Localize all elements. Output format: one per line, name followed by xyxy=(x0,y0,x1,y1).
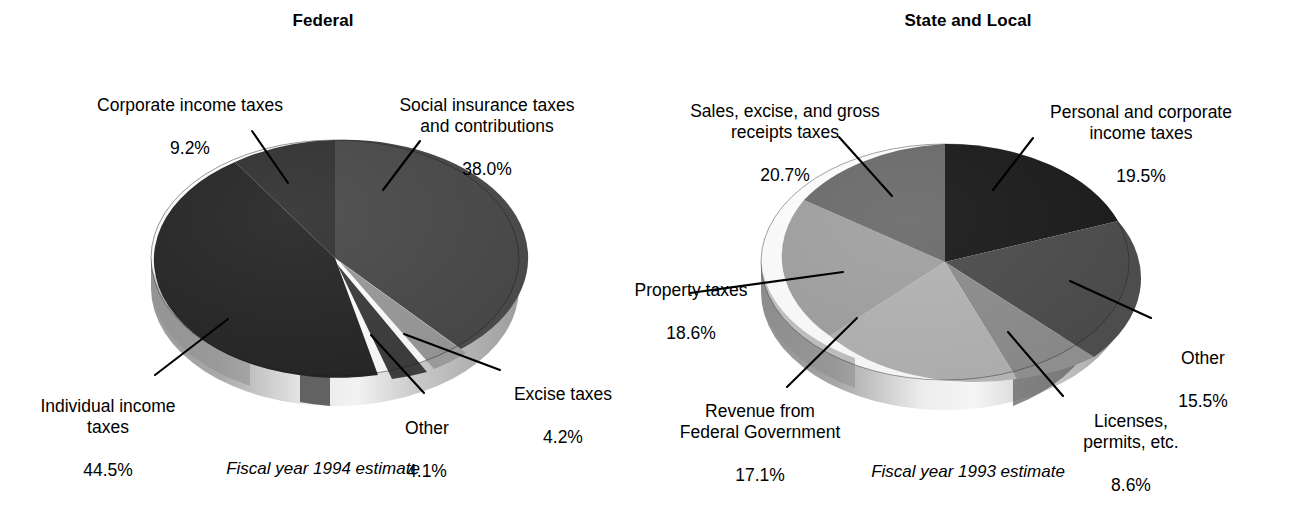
caption-state-and-local: Fiscal year 1993 estimate xyxy=(645,461,1291,482)
label-personal-corporate-income-taxes-name: Personal and corporate income taxes xyxy=(1001,102,1281,145)
label-excise-taxes: Excise taxes 4.2% xyxy=(488,362,638,470)
panel-federal: Federal xyxy=(0,0,646,511)
label-other-federal-name: Other xyxy=(372,418,482,440)
label-other-federal: Other 4.1% xyxy=(372,396,482,504)
label-excise-taxes-name: Excise taxes xyxy=(488,384,638,406)
label-other-state-name: Other xyxy=(1143,348,1263,370)
label-revenue-from-federal-government-name: Revenue from Federal Government xyxy=(635,401,885,444)
label-sales-excise-gross-receipts-value: 20.7% xyxy=(645,165,925,187)
caption-federal: Fiscal year 1994 estimate xyxy=(0,458,646,479)
label-corporate-income-taxes-name: Corporate income taxes xyxy=(55,95,325,117)
label-property-taxes: Property taxes 18.6% xyxy=(601,258,781,366)
revenue-pie-figure: Federal xyxy=(0,0,1291,511)
label-excise-taxes-value: 4.2% xyxy=(488,427,638,449)
label-social-insurance-taxes: Social insurance taxes and contributions… xyxy=(362,73,612,202)
label-individual-income-taxes: Individual income taxes 44.5% xyxy=(8,374,208,503)
label-property-taxes-value: 18.6% xyxy=(601,323,781,345)
label-social-insurance-taxes-value: 38.0% xyxy=(362,159,612,181)
label-individual-income-taxes-name: Individual income taxes xyxy=(8,396,208,439)
label-property-taxes-name: Property taxes xyxy=(601,280,781,302)
label-other-state: Other 15.5% xyxy=(1143,326,1263,434)
label-other-state-value: 15.5% xyxy=(1143,391,1263,413)
label-sales-excise-gross-receipts-name: Sales, excise, and gross receipts taxes xyxy=(645,101,925,144)
label-sales-excise-gross-receipts: Sales, excise, and gross receipts taxes … xyxy=(645,79,925,208)
label-personal-corporate-income-taxes-value: 19.5% xyxy=(1001,166,1281,188)
panel-state-and-local: State and Local xyxy=(645,0,1291,511)
label-corporate-income-taxes-value: 9.2% xyxy=(55,138,325,160)
label-revenue-from-federal-government: Revenue from Federal Government 17.1% xyxy=(635,379,885,508)
label-social-insurance-taxes-name: Social insurance taxes and contributions xyxy=(362,95,612,138)
label-personal-corporate-income-taxes: Personal and corporate income taxes 19.5… xyxy=(1001,80,1281,209)
label-corporate-income-taxes: Corporate income taxes 9.2% xyxy=(55,73,325,181)
